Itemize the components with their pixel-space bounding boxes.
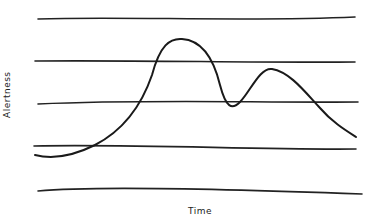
- grid-line-3: [38, 101, 358, 104]
- grid-line-2: [35, 61, 355, 62]
- y-axis-label: Alertness: [2, 71, 12, 118]
- grid-line-4: [34, 146, 356, 150]
- grid-line-1: [38, 17, 355, 19]
- alertness-chart: [0, 0, 381, 222]
- grid-line-5: [38, 188, 362, 194]
- alertness-curve: [35, 39, 356, 157]
- x-axis-label: Time: [188, 206, 212, 216]
